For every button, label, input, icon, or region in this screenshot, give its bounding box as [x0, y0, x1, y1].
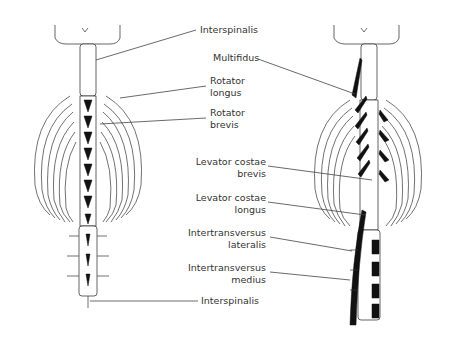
label-levator-costae-longus: Levator costae longus	[196, 192, 266, 216]
right-spine-figure	[314, 25, 421, 325]
label-line1: Levator costae	[196, 156, 266, 168]
label-rotator-brevis: Rotator brevis	[210, 107, 245, 131]
label-levator-costae-brevis: Levator costae brevis	[196, 156, 266, 180]
label-interspinalis-top: Interspinalis	[200, 24, 258, 36]
label-line1: Intertransversus	[188, 262, 266, 274]
label-line2: longus	[210, 87, 245, 99]
left-spine-figure	[34, 25, 141, 308]
label-line1: Intertransversus	[188, 227, 266, 239]
label-line2: longus	[196, 204, 266, 216]
label-intertransversus-lateralis: Intertransversus lateralis	[188, 227, 266, 251]
label-line2: brevis	[196, 168, 266, 180]
label-line1: Rotator	[210, 107, 245, 119]
label-multifidus: Multifidus	[213, 52, 259, 64]
label-line2: medius	[188, 274, 266, 286]
label-rotator-longus: Rotator longus	[210, 75, 245, 99]
label-line1: Rotator	[210, 75, 245, 87]
label-line2: lateralis	[188, 239, 266, 251]
label-intertransversus-medius: Intertransversus medius	[188, 262, 266, 286]
label-line1: Levator costae	[196, 192, 266, 204]
label-interspinalis-bottom: Interspinalis	[201, 295, 259, 307]
label-line2: brevis	[210, 119, 245, 131]
